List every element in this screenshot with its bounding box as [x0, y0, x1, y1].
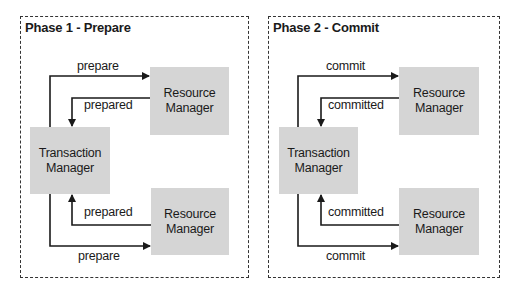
arrow-connectors: [0, 0, 521, 292]
arrow-commit-top: [298, 76, 398, 127]
arrow-commit-bottom: [298, 194, 398, 246]
arrow-prepare-top: [50, 76, 149, 127]
arrow-committed-top: [321, 98, 399, 126]
arrow-prepare-bottom: [50, 194, 150, 246]
arrow-prepared-top: [72, 98, 150, 126]
arrow-prepared-bottom: [72, 195, 151, 225]
arrow-committed-bottom: [321, 195, 399, 225]
